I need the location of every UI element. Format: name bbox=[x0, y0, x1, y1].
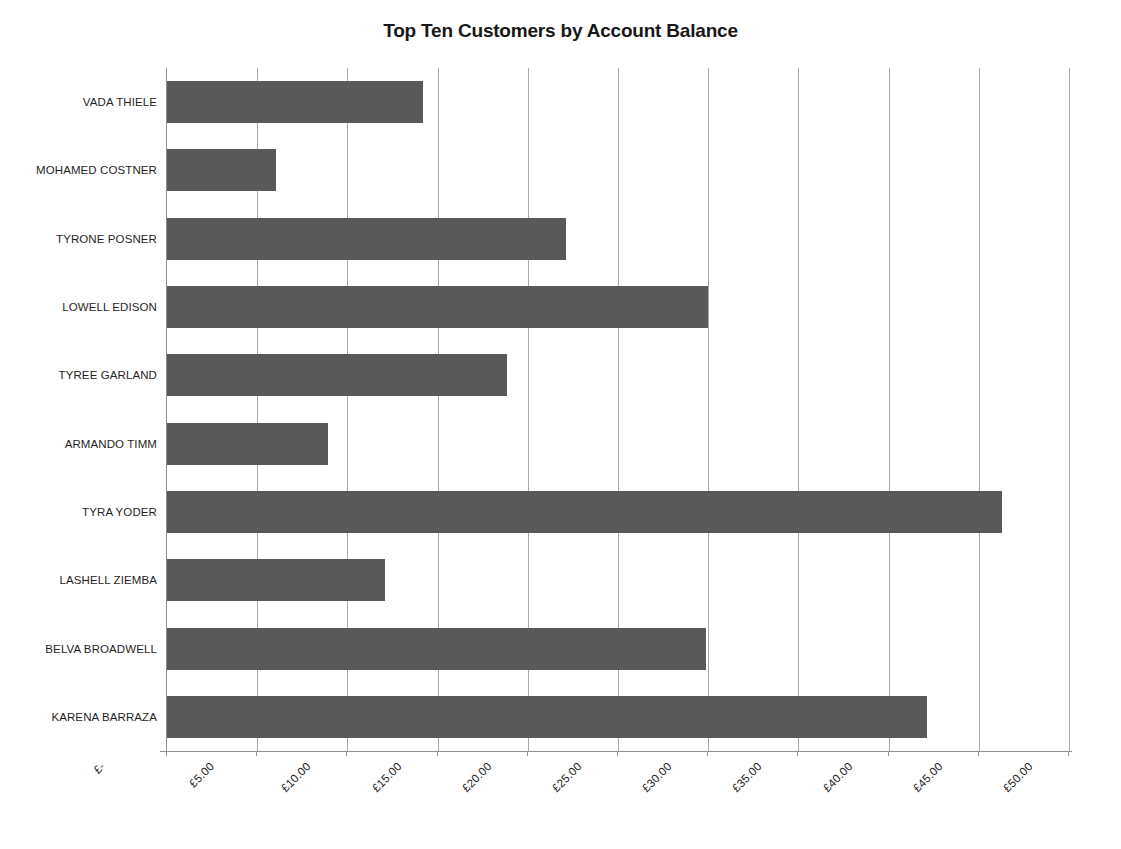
x-axis-label: £50.00 bbox=[1001, 760, 1035, 794]
category-label: VADA THIELE bbox=[0, 96, 157, 108]
category-label: TYRA YODER bbox=[0, 506, 157, 518]
x-axis-tick bbox=[437, 751, 438, 756]
bar-chart-figure: Top Ten Customers by Account Balance VAD… bbox=[0, 0, 1121, 849]
gridline bbox=[1069, 68, 1070, 751]
x-axis-label: £15.00 bbox=[369, 760, 403, 794]
category-label: BELVA BROADWELL bbox=[0, 643, 157, 655]
category-label: MOHAMED COSTNER bbox=[0, 164, 157, 176]
x-axis-tick bbox=[707, 751, 708, 756]
bar[interactable] bbox=[167, 696, 927, 738]
bar-row: TYRA YODER bbox=[167, 478, 1069, 546]
bar-row: ARMANDO TIMM bbox=[167, 410, 1069, 478]
bar[interactable] bbox=[167, 491, 1002, 533]
x-axis-label: £30.00 bbox=[640, 760, 674, 794]
bar[interactable] bbox=[167, 354, 507, 396]
bar-row: MOHAMED COSTNER bbox=[167, 136, 1069, 204]
x-axis-label: £45.00 bbox=[910, 760, 944, 794]
bar[interactable] bbox=[167, 423, 328, 465]
x-axis-label: £5.00 bbox=[187, 760, 217, 790]
x-axis-label: £20.00 bbox=[459, 760, 493, 794]
bar[interactable] bbox=[167, 81, 423, 123]
bar-row: TYREE GARLAND bbox=[167, 341, 1069, 409]
bar[interactable] bbox=[167, 559, 385, 601]
x-axis-tick bbox=[978, 751, 979, 756]
chart-title: Top Ten Customers by Account Balance bbox=[0, 20, 1121, 42]
x-axis-tick bbox=[797, 751, 798, 756]
bar-row: KARENA BARRAZA bbox=[167, 683, 1069, 751]
category-label: TYRONE POSNER bbox=[0, 233, 157, 245]
x-axis-tick bbox=[1068, 751, 1069, 756]
category-label: LASHELL ZIEMBA bbox=[0, 574, 157, 586]
plot-area: VADA THIELEMOHAMED COSTNERTYRONE POSNERL… bbox=[166, 68, 1069, 751]
x-axis-tick bbox=[527, 751, 528, 756]
category-label: TYREE GARLAND bbox=[0, 369, 157, 381]
bar-row: VADA THIELE bbox=[167, 68, 1069, 136]
x-axis-label: £35.00 bbox=[730, 760, 764, 794]
category-label: ARMANDO TIMM bbox=[0, 438, 157, 450]
x-axis-label: £- bbox=[91, 760, 107, 776]
x-axis-tick bbox=[346, 751, 347, 756]
bar-row: BELVA BROADWELL bbox=[167, 614, 1069, 682]
x-axis-label: £25.00 bbox=[550, 760, 584, 794]
bar-row: TYRONE POSNER bbox=[167, 205, 1069, 273]
x-axis-tick bbox=[617, 751, 618, 756]
x-axis-line bbox=[160, 751, 1072, 752]
x-axis-label: £40.00 bbox=[820, 760, 854, 794]
bar[interactable] bbox=[167, 218, 566, 260]
bar[interactable] bbox=[167, 149, 276, 191]
x-axis-tick bbox=[166, 751, 167, 756]
bar-row: LASHELL ZIEMBA bbox=[167, 546, 1069, 614]
bar[interactable] bbox=[167, 286, 708, 328]
category-label: KARENA BARRAZA bbox=[0, 711, 157, 723]
category-label: LOWELL EDISON bbox=[0, 301, 157, 313]
x-axis-tick bbox=[256, 751, 257, 756]
x-axis-tick bbox=[888, 751, 889, 756]
x-axis-label: £10.00 bbox=[279, 760, 313, 794]
bar[interactable] bbox=[167, 628, 706, 670]
bar-row: LOWELL EDISON bbox=[167, 273, 1069, 341]
